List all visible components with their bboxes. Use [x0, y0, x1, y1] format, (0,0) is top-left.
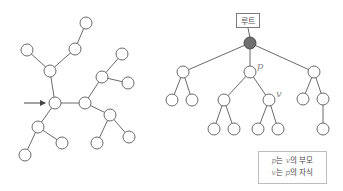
free-tree-node: [19, 149, 31, 161]
rooted-tree-node: [317, 93, 329, 105]
free-tree-node: [91, 137, 103, 149]
free-tree-node: [49, 97, 61, 109]
free-tree-node: [69, 43, 81, 55]
free-tree-node: [44, 65, 56, 77]
free-tree-node: [80, 17, 92, 29]
rooted-tree-node: [272, 123, 284, 135]
rooted-tree: pv: [166, 28, 329, 135]
rooted-tree-node: [297, 93, 309, 105]
rooted-tree-node: [218, 94, 230, 106]
legend-line-child: v는 p의 자식: [259, 167, 326, 179]
rooted-tree-node: [228, 123, 240, 135]
rooted-tree-node: [166, 94, 178, 106]
free-tree-node: [104, 109, 116, 121]
rooted-tree-node: [263, 94, 275, 106]
free-tree-node: [116, 48, 128, 60]
free-tree-node: [79, 97, 91, 109]
free-tree-node: [96, 71, 108, 83]
free-tree-node: [122, 77, 134, 89]
legend-box: p는 v의 부모 v는 p의 자식: [258, 151, 327, 184]
legend-text: 는: [276, 168, 285, 177]
rooted-tree-node: [244, 66, 256, 78]
rooted-tree-node: [308, 66, 320, 78]
legend-text: 의 부모: [290, 156, 313, 165]
free-tree-node: [32, 121, 44, 133]
node-label-v: v: [276, 88, 282, 99]
free-tree: [19, 17, 135, 161]
free-tree-node: [21, 44, 33, 56]
free-tree-node: [123, 131, 135, 143]
node-label-p: p: [257, 60, 264, 71]
rooted-tree-node: [252, 123, 264, 135]
root-label-pointer: [248, 28, 250, 38]
free-tree-node: [56, 137, 68, 149]
rooted-tree-node: [317, 123, 329, 135]
legend-text: 의 자식: [290, 168, 313, 177]
legend-line-parent: p는 v의 부모: [259, 155, 326, 167]
root-label-box: 루트: [236, 13, 260, 28]
rooted-tree-edge: [183, 43, 250, 72]
legend-text: 는: [276, 156, 285, 165]
rooted-tree-node: [186, 94, 198, 106]
rooted-tree-node: [177, 66, 189, 78]
root-label: 루트: [241, 17, 255, 26]
root-node: [244, 37, 256, 49]
rooted-tree-node: [208, 123, 220, 135]
